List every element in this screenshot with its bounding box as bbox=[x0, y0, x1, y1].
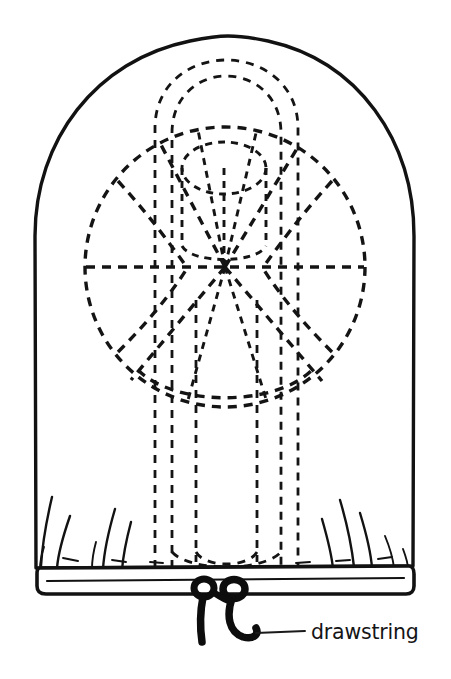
callout-leader-line bbox=[256, 631, 305, 633]
callout-label-drawstring: drawstring bbox=[311, 620, 419, 644]
bag-outline bbox=[35, 36, 414, 568]
bag-outline-group bbox=[35, 36, 414, 568]
cord-end-right bbox=[229, 598, 257, 638]
drawstring-cover-illustration: drawstring bbox=[0, 0, 451, 679]
cord-end-left bbox=[201, 597, 203, 642]
callout-drawstring: drawstring bbox=[256, 620, 419, 644]
illustration-canvas: drawstring bbox=[0, 0, 451, 679]
